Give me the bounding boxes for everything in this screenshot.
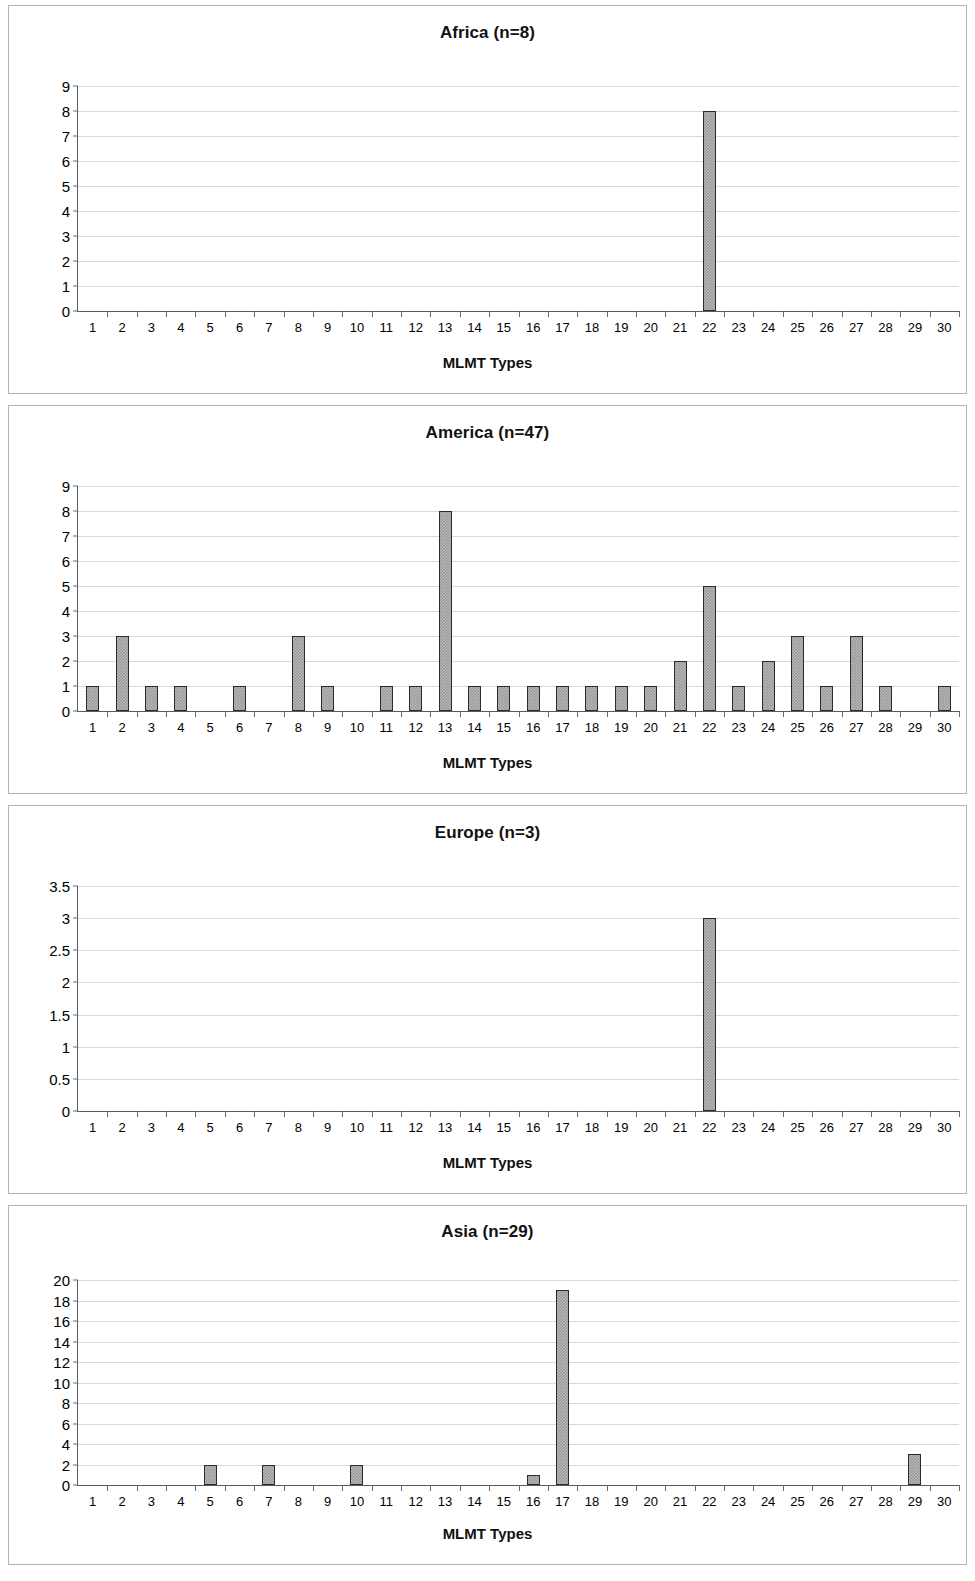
bars-layer-europe	[78, 886, 959, 1111]
x-axis-tick-label: 18	[585, 1495, 599, 1508]
plot-area-africa: 0123456789123456789101112131415161718192…	[77, 86, 959, 312]
bar-slot	[607, 1280, 636, 1485]
x-axis-tick-mark	[607, 1111, 608, 1117]
bar-slot	[313, 486, 342, 711]
x-axis-tick-mark	[313, 711, 314, 717]
bar-slot	[313, 86, 342, 311]
x-axis-tick-label: 6	[236, 1121, 243, 1134]
x-axis-tick-label: 22	[702, 1495, 716, 1508]
bar	[850, 636, 863, 711]
x-axis-tick-mark	[753, 711, 754, 717]
x-axis-tick-label: 13	[438, 1495, 452, 1508]
x-axis-tick-mark	[372, 711, 373, 717]
x-axis-tick-label: 24	[761, 721, 775, 734]
x-axis-tick-mark	[460, 711, 461, 717]
bar-slot	[460, 886, 489, 1111]
bar	[86, 686, 99, 711]
y-axis-tick-label: 20	[53, 1273, 70, 1288]
x-axis-tick-label: 4	[177, 721, 184, 734]
x-axis-tick-mark	[548, 1111, 549, 1117]
x-axis-tick-mark	[401, 1485, 402, 1491]
x-axis-tick-label: 10	[350, 1495, 364, 1508]
y-axis-tick-label: 8	[62, 1396, 70, 1411]
bar-slot	[460, 86, 489, 311]
bar	[233, 686, 246, 711]
plot-area-asia: 0246810121416182012345678910111213141516…	[77, 1280, 959, 1486]
x-axis-tick-label: 30	[937, 1495, 951, 1508]
x-axis-tick-label: 21	[673, 721, 687, 734]
x-axis-tick-mark	[930, 311, 931, 317]
x-axis-tick-mark	[342, 311, 343, 317]
x-axis-tick-label: 21	[673, 1121, 687, 1134]
x-axis-tick-mark	[577, 1485, 578, 1491]
bar-slot	[195, 486, 224, 711]
bar-slot	[195, 1280, 224, 1485]
bar-slot	[107, 1280, 136, 1485]
x-axis-tick-label: 14	[467, 721, 481, 734]
y-axis-tick-label: 9	[62, 79, 70, 94]
x-axis-tick-mark	[900, 1111, 901, 1117]
bar-slot	[871, 486, 900, 711]
bar-slot	[724, 486, 753, 711]
x-axis-tick-mark	[107, 311, 108, 317]
bar-slot	[254, 86, 283, 311]
y-axis-tick-label: 5	[62, 179, 70, 194]
x-axis-tick-label: 5	[207, 721, 214, 734]
bar-slot	[548, 86, 577, 311]
x-axis-tick-label: 30	[937, 321, 951, 334]
x-axis-tick-label: 3	[148, 321, 155, 334]
bar-slot	[107, 886, 136, 1111]
x-axis-tick-mark	[871, 1485, 872, 1491]
x-axis-tick-label: 10	[350, 721, 364, 734]
x-axis-title-africa: MLMT Types	[9, 354, 966, 371]
chart-panel-america: America (n=47)01234567891234567891011121…	[8, 405, 967, 794]
x-axis-tick-label: 4	[177, 321, 184, 334]
bar-slot	[489, 1280, 518, 1485]
bar-slot	[577, 486, 606, 711]
bar-slot	[900, 86, 929, 311]
x-axis-tick-label: 15	[497, 1495, 511, 1508]
x-axis-tick-mark	[401, 1111, 402, 1117]
bar-slot	[166, 886, 195, 1111]
x-axis-tick-label: 16	[526, 321, 540, 334]
x-axis-tick-mark	[871, 311, 872, 317]
bar	[615, 686, 628, 711]
bar-slot	[842, 886, 871, 1111]
x-axis-tick-mark	[489, 711, 490, 717]
x-axis-tick-mark	[313, 1111, 314, 1117]
x-axis-tick-mark	[460, 311, 461, 317]
bar-slot	[930, 486, 959, 711]
x-axis-tick-mark	[107, 1485, 108, 1491]
bar-slot	[695, 886, 724, 1111]
x-axis-tick-label: 25	[790, 1121, 804, 1134]
x-axis-tick-label: 17	[555, 1495, 569, 1508]
bar-slot	[137, 1280, 166, 1485]
x-axis-tick-mark	[254, 1111, 255, 1117]
bar	[468, 686, 481, 711]
bar	[556, 686, 569, 711]
x-axis-tick-mark	[812, 711, 813, 717]
y-axis-tick-label: 2	[62, 654, 70, 669]
bar-slot	[753, 886, 782, 1111]
x-axis-tick-label: 25	[790, 321, 804, 334]
y-axis-tick-label: 3	[62, 911, 70, 926]
y-axis-tick-label: 18	[53, 1293, 70, 1308]
x-axis-tick-label: 14	[467, 1495, 481, 1508]
x-axis-tick-label: 21	[673, 1495, 687, 1508]
y-axis-tick-label: 9	[62, 479, 70, 494]
x-axis-tick-mark	[313, 311, 314, 317]
x-axis-tick-mark	[489, 311, 490, 317]
x-axis-tick-mark	[607, 1485, 608, 1491]
x-axis-tick-mark	[665, 1485, 666, 1491]
bar-slot	[342, 86, 371, 311]
y-axis-tick-label: 1.5	[49, 1007, 70, 1022]
bar-slot	[78, 486, 107, 711]
bar-slot	[930, 1280, 959, 1485]
x-axis-tick-label: 2	[118, 321, 125, 334]
x-axis-tick-mark	[166, 1485, 167, 1491]
x-axis-tick-label: 21	[673, 321, 687, 334]
x-axis-tick-label: 10	[350, 321, 364, 334]
plot-wrapper-africa: 0123456789123456789101112131415161718192…	[9, 6, 966, 393]
bar-slot	[225, 886, 254, 1111]
bar-slot	[372, 1280, 401, 1485]
